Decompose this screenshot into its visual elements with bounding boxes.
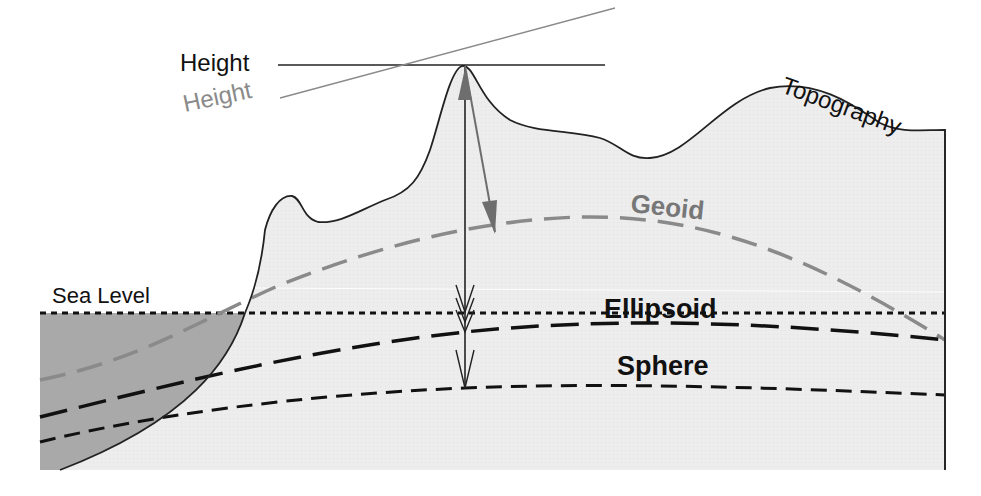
sea-level-label: Sea Level xyxy=(52,283,150,308)
height-label-gray: Height xyxy=(180,76,254,117)
height-line-gray xyxy=(280,8,615,98)
height-label-black: Height xyxy=(180,49,250,76)
geodesy-diagram: Height Height Topography Geoid Sea Level… xyxy=(0,0,981,496)
ellipsoid-label: Ellipsoid xyxy=(604,294,717,324)
sphere-label: Sphere xyxy=(617,351,709,381)
